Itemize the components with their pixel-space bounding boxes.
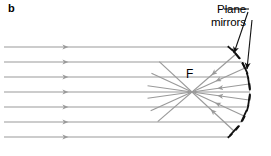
plane-mirror-tick xyxy=(232,49,240,59)
plane-mirrors-annotation: Plane mirrors xyxy=(178,3,246,29)
focal-point-label: F xyxy=(186,68,193,80)
reflected-ray xyxy=(151,68,245,111)
annotation-line-1: Plane xyxy=(178,3,246,16)
plane-mirror-tick xyxy=(248,78,250,91)
reflected-ray xyxy=(151,73,244,116)
optics-figure-plane-mirrors: b Plane mirrors F xyxy=(0,0,271,156)
annotation-line-2: mirrors xyxy=(178,16,246,29)
leader-line xyxy=(247,20,252,69)
plane-mirror-tick xyxy=(248,94,250,107)
incoming-parallel-rays xyxy=(4,47,250,137)
plane-mirror-tick xyxy=(241,110,246,122)
